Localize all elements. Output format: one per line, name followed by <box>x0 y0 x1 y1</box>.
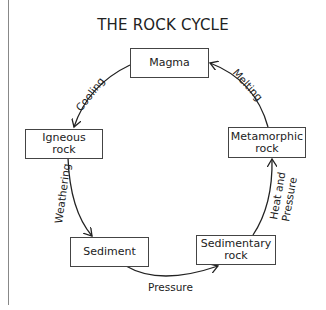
node-label: Metamorphic <box>231 131 303 143</box>
arrow-heat-pressure <box>253 159 272 235</box>
edge-label-pressure: Pressure <box>148 281 193 293</box>
node-label: rock <box>255 143 278 155</box>
edge-label-cooling: Cooling <box>73 75 107 113</box>
node-sedimentary-rock: Sedimentary rock <box>196 235 276 265</box>
edge-label-melting: Melting <box>231 66 266 103</box>
node-sediment: Sediment <box>70 237 149 267</box>
node-igneous-rock: Igneous rock <box>25 129 103 159</box>
arrow-pressure <box>126 266 218 276</box>
node-label: rock <box>224 250 247 262</box>
node-label: Sediment <box>83 246 136 258</box>
node-label: rock <box>52 144 75 156</box>
edge-label-weathering: Weathering <box>52 163 72 225</box>
node-label: Magma <box>149 57 190 69</box>
node-metamorphic-rock: Metamorphic rock <box>228 127 306 158</box>
node-magma: Magma <box>130 48 209 78</box>
